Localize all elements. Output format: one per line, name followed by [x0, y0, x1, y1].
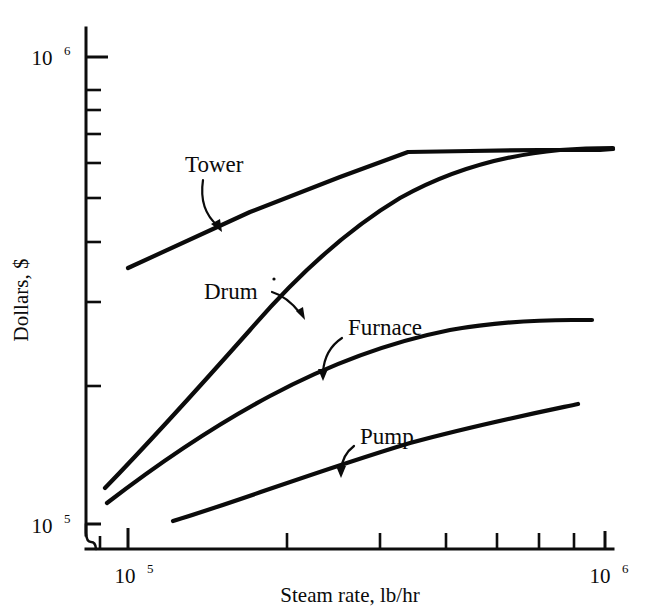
arrowhead-furnace [318, 369, 328, 381]
ink-speck [272, 277, 275, 280]
axis-group [86, 28, 613, 549]
y-axis-title: Dollars, $ [9, 259, 33, 342]
x-tick-label-1e5-exponent: 5 [147, 561, 154, 576]
y-tick-label-1e6-exponent: 6 [64, 43, 71, 58]
x-tick-label-1e5-mantissa: 10 [115, 564, 136, 588]
x-tick-label-1e6-mantissa: 10 [590, 564, 611, 588]
series-line-furnace [107, 320, 592, 503]
series-label-tower: Tower [185, 152, 244, 177]
series-label-furnace: Furnace [348, 315, 422, 340]
x-axis-ticks [100, 528, 605, 549]
log-log-plot: 10 6 10 5 10 5 10 6 Steam rate, lb/hr Do… [0, 0, 647, 609]
leader-line-tower [202, 180, 218, 226]
series-label-drum: Drum [204, 279, 258, 304]
series-label-pump: Pump [360, 424, 414, 449]
arrowhead-pump [336, 466, 346, 478]
series-line-pump [173, 404, 578, 521]
chart-figure: 10 6 10 5 10 5 10 6 Steam rate, lb/hr Do… [0, 0, 647, 609]
annotation-pump: Pump [336, 424, 414, 478]
y-tick-label-1e6-mantissa: 10 [32, 46, 53, 70]
tick-labels: 10 6 10 5 10 5 10 6 [32, 43, 630, 588]
annotation-furnace: Furnace [318, 315, 422, 381]
x-axis-title: Steam rate, lb/hr [280, 583, 419, 607]
x-tick-label-1e6-exponent: 6 [622, 561, 629, 576]
y-tick-label-1e5-mantissa: 10 [32, 514, 53, 538]
y-axis-ticks [86, 57, 108, 524]
y-tick-label-1e5-exponent: 5 [64, 511, 71, 526]
